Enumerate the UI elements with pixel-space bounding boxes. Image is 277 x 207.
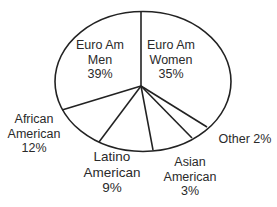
label-other: Other 2% xyxy=(215,132,275,147)
label-euro-am-women: Euro Am Women 35% xyxy=(141,38,201,82)
label-african-american: African American 12% xyxy=(4,112,64,156)
label-euro-am-men: Euro Am Men 39% xyxy=(70,38,130,82)
label-latino-american: Latino American 9% xyxy=(80,149,144,196)
pie-outline xyxy=(55,12,231,152)
label-asian-american: Asian American 3% xyxy=(160,155,220,199)
